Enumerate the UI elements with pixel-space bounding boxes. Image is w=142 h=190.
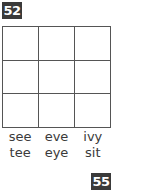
empty-grid bbox=[2, 26, 111, 128]
page-number-bottom: 55 bbox=[91, 173, 111, 190]
grid-cell bbox=[39, 61, 75, 95]
word: tee bbox=[2, 145, 38, 161]
grid-cell bbox=[75, 27, 111, 61]
word-list: see eve ivy tee eye sit bbox=[2, 129, 111, 161]
word: eye bbox=[38, 145, 74, 161]
grid-cell bbox=[75, 94, 111, 128]
grid-cell bbox=[75, 61, 111, 95]
grid-cell bbox=[3, 27, 39, 61]
page-number-top: 52 bbox=[2, 2, 22, 19]
grid-cell bbox=[3, 61, 39, 95]
grid-cell bbox=[3, 94, 39, 128]
grid-cell bbox=[39, 94, 75, 128]
word: sit bbox=[75, 145, 111, 161]
word: see bbox=[2, 129, 38, 145]
grid-cell bbox=[39, 27, 75, 61]
word: eve bbox=[38, 129, 74, 145]
word: ivy bbox=[75, 129, 111, 145]
